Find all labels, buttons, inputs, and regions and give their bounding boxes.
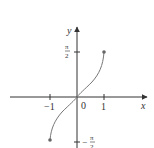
x-axis-label: x xyxy=(140,100,146,111)
y-tick-label-minus: − xyxy=(82,137,87,147)
arcsin-graph: x y −1 0 1 π 2 − π 2 xyxy=(0,0,154,148)
x-tick-label-neg1: −1 xyxy=(44,101,55,112)
x-tick-label-0: 0 xyxy=(81,100,86,111)
y-tick-label-2: 2 xyxy=(65,52,69,60)
x-tick-label-1: 1 xyxy=(101,101,106,112)
endpoint-top xyxy=(102,50,106,54)
y-tick-label-pi: π xyxy=(65,43,69,51)
y-axis-label: y xyxy=(66,25,72,36)
endpoint-bottom xyxy=(48,138,52,142)
y-tick-label-neg-2: 2 xyxy=(90,143,94,148)
y-tick-label-neg-pi: π xyxy=(90,134,94,142)
